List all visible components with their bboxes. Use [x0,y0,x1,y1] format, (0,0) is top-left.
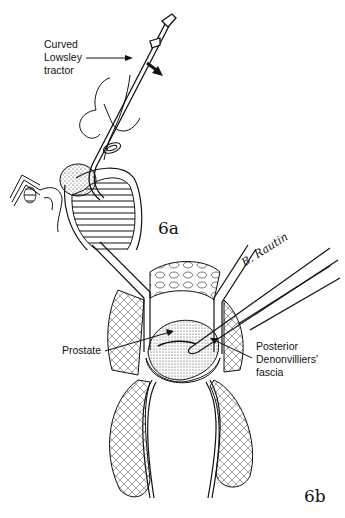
left-seminal-vesicle [110,380,150,497]
pubic-bone [10,175,62,232]
tractor-leader-line [86,55,133,61]
figure-number-6a: 6a [158,218,179,238]
figure-6b: B. Rautin Prostate Posterior Denonvillie… [0,240,345,518]
ureter-section [102,141,122,156]
left-tissue [108,290,144,375]
rectum [143,380,220,498]
figure-6b-illustration [0,240,345,518]
figure-6a: Curved Lowsley tractor 6a [0,0,345,250]
traction-direction-arrow-icon [147,63,163,76]
figure-number-6b: 6b [304,486,326,506]
prostate-6b [148,320,219,380]
label-prostate: Prostate [62,344,101,357]
right-tissue [224,300,243,372]
label-posterior-denonvilliers-fascia: Posterior Denonvilliers' fascia [256,340,318,379]
bone-cross-section [24,187,36,203]
label-curved-lowsley-tractor: Curved Lowsley tractor [44,38,82,77]
periprostatic-fat [150,262,220,301]
lowsley-tractor-icon [89,14,176,200]
